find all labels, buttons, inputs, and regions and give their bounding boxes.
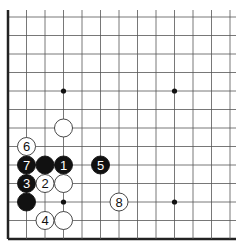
white-stone: 6	[18, 138, 36, 156]
star-point-icon	[61, 88, 66, 93]
white-stone: 2	[36, 175, 54, 193]
move-number-label: 1	[60, 158, 67, 173]
move-number-label: 5	[97, 158, 104, 173]
move-number-label: 6	[23, 139, 30, 154]
white-stone-icon	[55, 119, 73, 137]
black-stone	[18, 193, 36, 211]
white-stone: 4	[36, 212, 54, 230]
stones-layer: 67153284	[18, 119, 129, 230]
black-stone: 1	[55, 156, 73, 174]
white-stone: 8	[110, 193, 128, 211]
black-stone-icon	[36, 156, 54, 174]
black-stone: 7	[18, 156, 36, 174]
white-stone-icon	[55, 212, 73, 230]
move-number-label: 4	[41, 213, 48, 228]
white-stone	[55, 175, 73, 193]
black-stone: 3	[18, 175, 36, 193]
star-point-icon	[172, 88, 177, 93]
black-stone-icon	[18, 193, 36, 211]
move-number-label: 2	[41, 176, 48, 191]
go-board: 67153284	[0, 0, 242, 249]
white-stone	[55, 119, 73, 137]
white-stone	[55, 212, 73, 230]
move-number-label: 3	[23, 176, 30, 191]
move-number-label: 8	[115, 195, 122, 210]
black-stone: 5	[92, 156, 110, 174]
move-number-label: 7	[23, 158, 30, 173]
black-stone	[36, 156, 54, 174]
star-point-icon	[61, 199, 66, 204]
star-point-icon	[172, 199, 177, 204]
white-stone-icon	[55, 175, 73, 193]
